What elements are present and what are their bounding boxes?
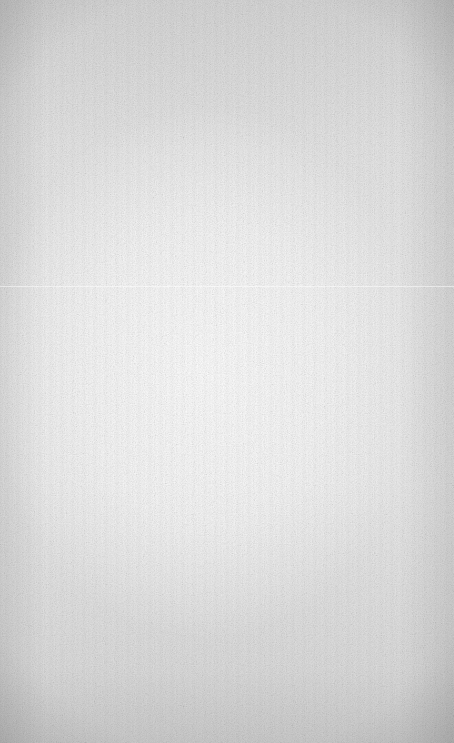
grain-texture — [0, 0, 454, 743]
scratch-line — [0, 286, 454, 287]
